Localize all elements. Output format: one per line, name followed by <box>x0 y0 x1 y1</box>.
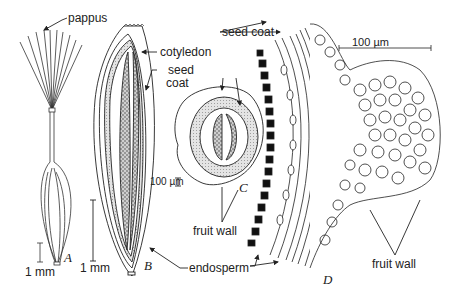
label-seed-coat-b-line1: seed <box>168 64 194 76</box>
label-seed-coat-d: seed coat <box>222 26 274 38</box>
label-fruit-wall-d: fruit wall <box>372 258 416 270</box>
label-scale-d: 100 µm <box>352 36 389 48</box>
label-cotyledon: cotyledon <box>160 46 211 58</box>
botanical-figure: pappus cotyledon seed coat seed coat 100… <box>0 0 467 296</box>
label-pappus: pappus <box>68 12 107 24</box>
label-fruit-wall-c: fruit wall <box>193 225 237 237</box>
label-scale-a: 1 mm <box>25 266 55 278</box>
label-scale-c: 100 µm <box>150 176 184 188</box>
label-endosperm: endosperm <box>189 262 249 274</box>
scale-bar-a <box>37 243 43 262</box>
panel-b-section <box>90 24 154 276</box>
panel-d-detail <box>248 24 440 268</box>
label-scale-b: 1 mm <box>80 262 110 274</box>
panel-label-c: C <box>239 182 248 194</box>
panel-label-d: D <box>323 274 332 286</box>
pappus-bristles <box>20 30 82 110</box>
panel-c-section <box>175 87 263 222</box>
panel-label-b: B <box>144 260 152 272</box>
label-seed-coat-b-line2: coat <box>166 77 189 89</box>
panel-label-a: A <box>64 252 72 264</box>
panel-a-fruit <box>20 30 82 265</box>
scale-bar-b <box>90 200 96 261</box>
